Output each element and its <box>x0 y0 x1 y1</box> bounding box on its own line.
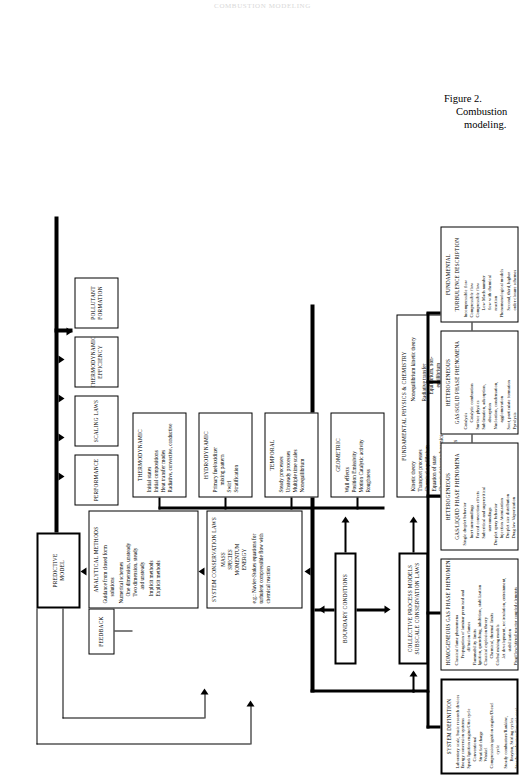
turbulence-title: FUNDAMENTAL <box>444 231 451 317</box>
het-gl-title2: GAS/LIQUID PHASE PHENOMENA <box>453 447 460 545</box>
hg-8: Jet development, recirculation, entrainm… <box>500 563 506 665</box>
arrow-analytical-to-model <box>80 567 86 575</box>
sd-0: Laboratory scale, basic research devices <box>454 684 460 768</box>
ft-9: Statistical, Stochastic models <box>517 231 518 317</box>
thermodynamic-title: THERMODYNAMIC <box>136 417 143 492</box>
analytical-methods-item-2: Numerical schemes <box>117 515 124 603</box>
box-predictive-model: PREDICTIVE MODEL <box>36 532 80 608</box>
geometric-title: GEOMETRIC <box>334 417 341 492</box>
hgl-7: Droplet size distribution <box>504 447 510 545</box>
analytical-methods-item-7: Explicit methods <box>154 515 161 603</box>
hgs-0: Catalysis <box>462 335 468 429</box>
analytical-methods-item-3: One dimension, unsteady <box>124 515 131 603</box>
predictive-model-title2: MODEL <box>58 560 65 580</box>
hgs-6: agglomeration <box>498 335 504 429</box>
line-boundary-to-bus <box>314 608 334 611</box>
sd-7: cycle <box>494 684 500 768</box>
hgl-9: Pyrolysis Mixing <box>516 447 518 545</box>
hgl-4: surroundings <box>486 447 492 545</box>
fp-c2-0: Nonequilibrium kinetic theory <box>409 320 416 401</box>
hgs-2: Surface physics <box>474 335 480 429</box>
sd-3: Conventional <box>471 684 477 768</box>
hydrodynamic-item-0: Primary fuel/oxidizer <box>211 417 218 492</box>
temporal-item-0: Steady processes <box>277 417 284 492</box>
hgs-4: absorption <box>486 335 492 429</box>
geometric-item-1: Position Emissivity <box>350 417 357 492</box>
hg-7: Global mixing models <box>494 563 500 665</box>
ft-3: Low Mach number <box>480 231 486 317</box>
hgl-2: Forced convection effects <box>474 447 480 545</box>
hg-9: stabilization <box>506 563 512 665</box>
sd-10: Steady combustors/Gas, oil, coal <box>513 684 518 768</box>
hg-6: Chemical, thermal limits <box>488 563 494 665</box>
thermodynamic-item-1: Initial compositions <box>152 417 159 492</box>
ft-1: Compressible flow <box>468 231 474 317</box>
hg-1: Propagation of laminar premixed and <box>459 563 465 665</box>
left-vertical-bus <box>310 689 414 692</box>
thermodynamic-efficiency-title2: EFFICIENCY <box>96 345 103 379</box>
thermodynamic-item-0: Initial states <box>145 417 152 492</box>
sd-2: Spark Ignition engine/Otto cycle <box>465 684 471 768</box>
line-collective-to-boundary <box>356 608 386 611</box>
hydrodynamic-item-1: mixing pattern <box>218 417 225 492</box>
analytical-methods-title: ANALYTICAL METHODS <box>92 515 99 603</box>
thermodynamic-item-3: Radiative, convective, conductive <box>166 417 173 492</box>
boundary-conditions-title: BOUNDARY CONDITIONS <box>341 573 348 642</box>
box-performance: PERFORMANCE <box>74 454 118 505</box>
collective-process-title2: SUBSCALE CONSERVATION LAWS <box>413 562 420 654</box>
pollutant-formation-title: POLLUTANT <box>89 286 96 320</box>
ft-0: Incompressible flow <box>462 231 468 317</box>
sd-5: Wankel <box>482 684 488 768</box>
box-homogeneous-gas-phase: HOMOGENEOUS GAS PHASE PHENOMENA Classica… <box>440 558 518 670</box>
fp-c1-3: Equation of state <box>430 409 437 491</box>
hgl-8: Drag law Vaporization <box>510 447 516 545</box>
hgl-1: Inert surroundings <box>468 447 474 545</box>
arrow-conservation-to-analytical <box>198 567 204 575</box>
sd-4: Stratified charge <box>477 684 483 768</box>
arrow-to-thermodynamic-efficiency <box>58 394 64 402</box>
arrow-to-pollutant-formation <box>58 355 64 363</box>
scaling-laws-title: SCALING LAWS <box>92 399 99 442</box>
line-conditions-to-boundary <box>344 520 346 552</box>
arrow-collective-to-boundary <box>384 605 390 613</box>
arrow-into-conservation <box>304 567 310 575</box>
output-bus-line <box>54 216 58 533</box>
tap-thermodynamic <box>158 497 160 509</box>
hgl-6: Injection Atomization <box>498 447 504 545</box>
box-heterogeneous-gas-liquid: HETEROGENEOUS GAS/LIQUID PHASE PHENOMENA… <box>440 442 518 550</box>
het-gs-title: HETEROGENEOUS <box>444 335 451 429</box>
hgl-3: Subcritical and supercritical <box>480 447 486 545</box>
box-feedback: FEEDBACK <box>88 608 114 654</box>
feedback-line-left-outer <box>36 743 250 744</box>
box-geometric: GEOMETRIC Wall effects Position Emissivi… <box>330 412 384 497</box>
geometric-item-0: Wall effects <box>343 417 350 492</box>
hgs-7: Soot, particulate formation <box>505 335 511 429</box>
sd-6: Compression ignition engine/Diesel <box>488 684 494 768</box>
hgl-0: Single droplet behavior <box>461 447 467 545</box>
temporal-item-2: Multiple time scales <box>291 417 298 492</box>
conservation-item-eg-1: turbulent compressible flow with <box>257 515 264 603</box>
box-system-conservation-laws: SYSTEM CONSERVATION LAWS MASS SPECIES MO… <box>206 510 302 608</box>
feedback-line-inner-left <box>62 717 204 718</box>
box-heterogeneous-gas-solid: HETEROGENEOUS GAS/SOLID PHASE PHENOMENA … <box>440 330 518 434</box>
box-thermodynamic-efficiency: THERMODYNAMIC EFFICIENCY <box>74 336 118 387</box>
hg-4: Ignition, quenching, inhibition, stabili… <box>476 563 482 665</box>
ft-4: flow with chemical <box>486 231 492 317</box>
phenomena-tap-gas-liquid <box>426 494 440 497</box>
thermodynamic-efficiency-title: THERMODYNAMIC <box>89 336 96 387</box>
feedback-line-top <box>36 608 37 744</box>
box-analytical-methods: ANALYTICAL METHODS Guidance from closed … <box>88 510 198 608</box>
performance-title: PERFORMANCE <box>92 458 99 501</box>
feedback-line-inner-top <box>62 608 63 718</box>
ft-2: Compressible flow <box>474 231 480 317</box>
hgl-5: Droplet spray behavior <box>492 447 498 545</box>
hg-0: Classical flame phenomena <box>453 563 459 665</box>
thermodynamic-item-2: Heat transfer modes <box>159 417 166 492</box>
box-boundary-conditions: BOUNDARY CONDITIONS <box>334 552 356 664</box>
left-spine-lower <box>412 689 428 692</box>
temporal-item-3: Nonequilibrium <box>298 417 305 492</box>
conservation-item-momentum: MOMENTUM <box>233 515 240 603</box>
arrow-to-pollutant-formation-2 <box>66 327 72 335</box>
het-gl-title: HETEROGENEOUS <box>444 447 451 545</box>
conservation-item-mass: MASS <box>219 515 226 603</box>
